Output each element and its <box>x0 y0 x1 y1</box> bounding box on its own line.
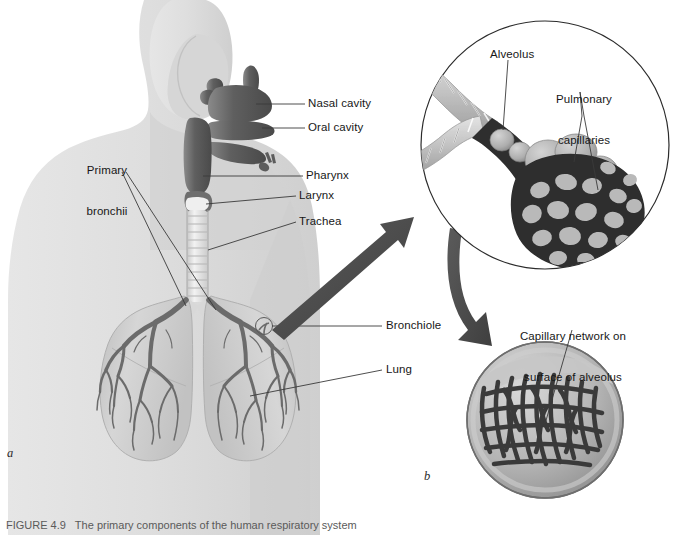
label-primary-bronchii-line1: Primary <box>72 164 142 178</box>
label-bronchiole: Bronchiole <box>386 319 441 333</box>
label-capillary-network: Capillary network on surface of alveolus <box>500 303 646 411</box>
figure-caption: FIGURE 4.9 The primary components of the… <box>6 519 357 531</box>
label-pulmonary-capillaries-line1: Pulmonary <box>538 93 630 107</box>
panel-letter-a: a <box>7 446 13 461</box>
label-capillary-network-line1: Capillary network on <box>500 330 646 344</box>
label-nasal-cavity: Nasal cavity <box>308 97 371 111</box>
label-primary-bronchii: Primary bronchii <box>72 137 142 245</box>
label-alveolus: Alveolus <box>490 48 534 62</box>
panel-letter-b: b <box>424 469 430 484</box>
label-capillary-network-line2: surface of alveolus <box>500 371 646 385</box>
label-trachea: Trachea <box>299 215 341 229</box>
label-pharynx: Pharynx <box>306 169 349 183</box>
label-primary-bronchii-line2: bronchii <box>72 205 142 219</box>
respiratory-system-figure: Nasal cavity Oral cavity Pharynx Larynx … <box>0 0 682 535</box>
label-pulmonary-capillaries: Pulmonary capillaries <box>538 66 630 174</box>
label-larynx: Larynx <box>299 189 334 203</box>
label-oral-cavity: Oral cavity <box>308 121 363 135</box>
label-pulmonary-capillaries-line2: capillaries <box>538 134 630 148</box>
label-lung: Lung <box>386 363 412 377</box>
